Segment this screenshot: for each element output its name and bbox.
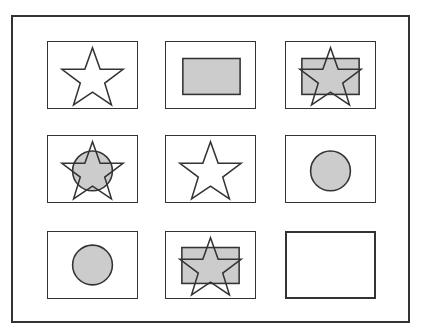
- rectangle-star-overlap-shape: [166, 232, 255, 298]
- cell-r2-c1: [47, 135, 138, 203]
- star-outline-shape: [166, 136, 255, 202]
- cell-r3-c1: [47, 231, 138, 299]
- cell-r1-c2: [165, 41, 256, 109]
- circle-star-overlap-shape: [48, 136, 137, 202]
- circle-filled-shape: [286, 136, 375, 202]
- cell-r1-c3: [285, 41, 376, 109]
- star-outline-shape: [48, 42, 137, 108]
- circle-filled-shape: [48, 232, 137, 298]
- cell-r2-c2: [165, 135, 256, 203]
- cell-r2-c3: [285, 135, 376, 203]
- cell-r1-c1: [47, 41, 138, 109]
- rectangle-filled-shape: [166, 42, 255, 108]
- cell-r3-c2: [165, 231, 256, 299]
- answer-cell-empty[interactable]: [285, 231, 376, 299]
- rectangle-star-overlap-shape: [286, 42, 375, 108]
